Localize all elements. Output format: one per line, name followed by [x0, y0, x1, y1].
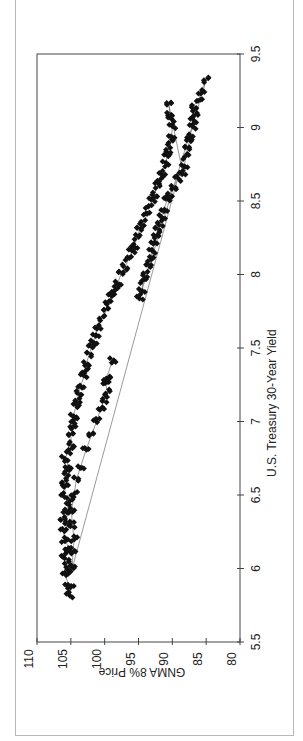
x-tick-label: 7.5 [249, 339, 263, 356]
x-axis-title: U.S. Treasury 30-Year Yield [265, 329, 279, 477]
x-tick-label: 6 [249, 565, 263, 572]
y-tick-label: 105 [56, 649, 70, 669]
x-tick-label: 9.5 [249, 45, 263, 62]
x-tick-label: 7 [249, 418, 263, 425]
y-axis-price: 11010510095908580 [22, 638, 240, 669]
x-axis-yield: 5.566.577.588.599.5 [237, 45, 263, 650]
x-tick-label: 8 [249, 271, 263, 278]
x-tick-label: 9 [249, 124, 263, 131]
x-tick-label: 6.5 [249, 486, 263, 503]
y-tick-label: 80 [225, 652, 239, 666]
y-tick-label: 110 [22, 649, 36, 668]
x-tick-label: 8.5 [249, 192, 263, 209]
x-tick-label: 5.5 [249, 633, 263, 650]
scatter-chart: 5.566.577.588.599.5 11010510095908580 U.… [0, 0, 303, 741]
y-tick-label: 90 [157, 652, 171, 666]
side-caption [1, 560, 9, 740]
y-tick-label: 85 [191, 652, 205, 666]
y-axis-title: GNMA 8% Price [98, 665, 185, 679]
y-tick-label: 95 [124, 652, 138, 666]
